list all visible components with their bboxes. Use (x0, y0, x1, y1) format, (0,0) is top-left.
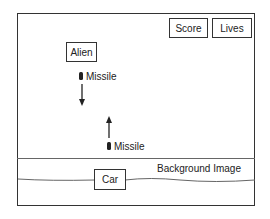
background-image-label: Background Image (157, 163, 241, 174)
arrow-up-icon (106, 116, 112, 138)
background-top-line (17, 158, 255, 159)
player-missile-label: Missile (114, 141, 145, 152)
ground-wave-line (18, 179, 255, 182)
arrow-down-icon (79, 84, 85, 106)
alien-missile-label: Missile (86, 71, 117, 82)
car-label: Car (102, 174, 118, 185)
missile-icon (107, 142, 111, 150)
car-box: Car (94, 169, 126, 190)
diagram-graphics (0, 0, 270, 219)
missile-icon (79, 72, 83, 80)
